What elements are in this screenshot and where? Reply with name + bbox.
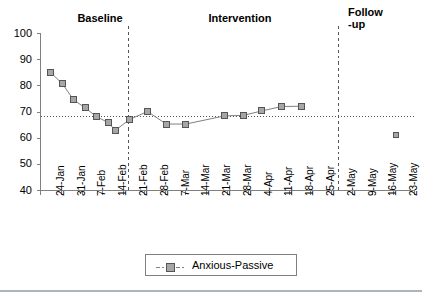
y-axis-tick-80: 80 bbox=[8, 79, 32, 91]
legend-marker-icon bbox=[155, 259, 185, 271]
x-axis-tick-7-feb: 7-Feb bbox=[96, 170, 107, 196]
x-axis-tick-16-may: 16-May bbox=[387, 163, 398, 196]
x-axis-tick-25-apr: 25-Apr bbox=[325, 166, 336, 196]
x-axis-tick-28-feb: 28-Feb bbox=[159, 164, 170, 196]
legend-entry-anxious-passive: Anxious-Passive bbox=[146, 255, 296, 275]
x-axis-tick-21-feb: 21-Feb bbox=[138, 164, 149, 196]
y-axis-tick-50: 50 bbox=[8, 157, 32, 169]
x-axis-tick-28-mar: 28-Mar bbox=[242, 164, 253, 196]
x-axis-tick-11-apr: 11-Apr bbox=[283, 167, 294, 196]
chart-container: Baseline Intervention Follow -up 1009080… bbox=[0, 0, 422, 299]
y-axis-tick-60: 60 bbox=[8, 131, 32, 143]
phase-label-followup: Follow -up bbox=[348, 6, 408, 30]
footer-divider bbox=[0, 290, 422, 292]
x-axis-tick-23-may: 23-May bbox=[408, 163, 419, 196]
phase-label-baseline: Baseline bbox=[60, 12, 140, 24]
x-axis-tick-18-apr: 18-Apr bbox=[304, 166, 315, 196]
x-axis-tick-24-jan: 24-Jan bbox=[55, 165, 66, 196]
y-axis-tick-90: 90 bbox=[8, 53, 32, 65]
legend-label: Anxious-Passive bbox=[192, 259, 273, 271]
chart-legend: Anxious-Passive bbox=[145, 254, 297, 276]
phase-label-intervention: Intervention bbox=[185, 12, 295, 24]
y-axis-tick-40: 40 bbox=[8, 184, 32, 196]
x-axis-tick-31-jan: 31-Jan bbox=[76, 165, 87, 196]
x-axis-tick-14-mar: 14-Mar bbox=[200, 164, 211, 196]
x-axis-tick-4-apr: 4-Apr bbox=[263, 172, 274, 196]
y-axis-tick-70: 70 bbox=[8, 105, 32, 117]
x-axis-tick-9-may: 9-May bbox=[367, 168, 378, 196]
x-axis-tick-7-mar: 7-Mar bbox=[180, 170, 191, 196]
data-series-anxious-passive bbox=[48, 70, 398, 138]
y-axis-tick-100: 100 bbox=[8, 27, 32, 39]
x-axis-tick-21-mar: 21-Mar bbox=[221, 164, 232, 196]
x-axis-tick-14-feb: 14-Feb bbox=[117, 164, 128, 196]
x-axis-tick-2-may: 2-May bbox=[346, 168, 357, 196]
